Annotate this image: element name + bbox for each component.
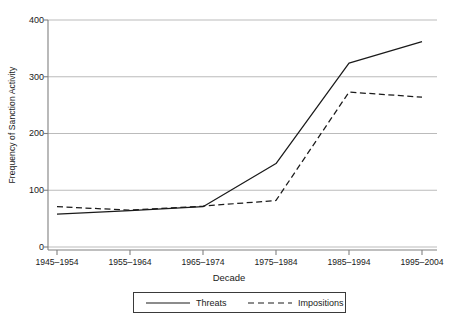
data-series: [57, 42, 422, 215]
chart-legend: Threats Impositions: [133, 292, 346, 313]
x-tick-label-0: 1945–1954: [17, 257, 97, 267]
chart-figure: Frequency of Sanction Activity 400 300 2…: [0, 0, 458, 327]
x-tick-label-3: 1975–1984: [236, 257, 316, 267]
legend-label-impositions: Impositions: [298, 298, 344, 308]
series-line-threats: [57, 42, 422, 215]
x-tick-label-4: 1985–1994: [309, 257, 389, 267]
x-tick-label-5: 1995–2004: [382, 257, 458, 267]
legend-entry-threats: Threats: [146, 293, 227, 312]
legend-line-solid-icon: [146, 298, 190, 308]
legend-label-threats: Threats: [196, 298, 227, 308]
legend-line-dashed-icon: [248, 298, 292, 308]
x-tick-label-1: 1955–1964: [90, 257, 170, 267]
legend-entry-impositions: Impositions: [248, 293, 344, 312]
series-line-impositions: [57, 92, 422, 210]
x-tick-label-2: 1965–1974: [163, 257, 243, 267]
axis-ticks: [44, 20, 422, 255]
x-axis-title: Decade: [0, 272, 458, 283]
